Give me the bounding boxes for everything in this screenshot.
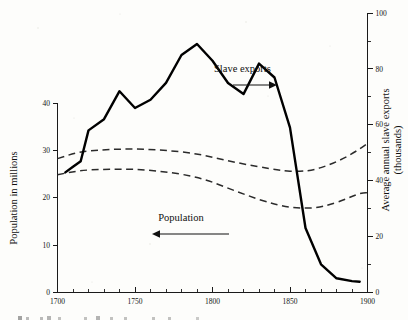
population-arrow-head-left-icon: [152, 230, 160, 238]
bottom-tick-1850: 1850: [283, 297, 298, 306]
bottom-tick-1800: 1800: [205, 297, 220, 306]
left-tick-0: 0: [46, 288, 50, 297]
left-axis: 0 10 20 30 40 Population in millions: [8, 99, 58, 297]
left-axis-title: Population in millions: [8, 151, 19, 244]
annotation-population: Population: [152, 212, 229, 238]
figure-container: 0 10 20 30 40 Population in millions: [0, 0, 408, 320]
right-tick-0: 0: [376, 288, 380, 297]
left-tick-20: 20: [43, 193, 51, 202]
series-population-upper: [58, 143, 368, 171]
slave-exports-label: Slave exports: [214, 63, 271, 74]
left-tick-40: 40: [43, 99, 51, 108]
right-axis-title-line2: (thousands): [392, 125, 404, 174]
right-tick-80: 80: [376, 65, 384, 74]
right-tick-20: 20: [376, 232, 384, 241]
right-tick-100: 100: [376, 9, 388, 18]
series-population-lower: [58, 169, 368, 208]
right-axis: 100 80 60 40 20 0 Average annual slave e…: [368, 9, 405, 298]
right-axis-title-line1: Average annual slave exports: [380, 88, 391, 211]
bottom-tick-1700: 1700: [50, 297, 65, 306]
population-label: Population: [158, 212, 204, 223]
left-tick-30: 30: [43, 146, 51, 155]
bottom-tick-1750: 1750: [128, 297, 143, 306]
bottom-tick-1900: 1900: [360, 297, 375, 306]
bottom-axis: 1700 1750 1800 1850 1900: [50, 287, 375, 307]
left-tick-10: 10: [43, 241, 51, 250]
series-slave-exports: [65, 44, 359, 282]
dual-axis-line-chart: 0 10 20 30 40 Population in millions: [0, 0, 408, 320]
figure-caption-clipped: [18, 316, 199, 320]
